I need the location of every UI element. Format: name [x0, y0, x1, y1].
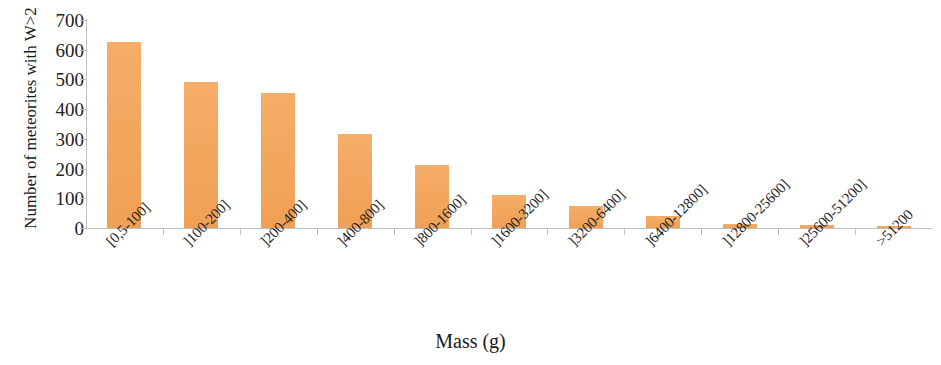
y-axis-tick-label: 400 [28, 100, 84, 119]
x-axis-tick-mark [394, 229, 395, 235]
x-axis-tick-mark [778, 229, 779, 235]
y-axis-tick-label: 0 [28, 219, 84, 238]
y-axis-tick-mark [80, 198, 86, 199]
x-axis-tick-mark [163, 229, 164, 235]
x-axis-tick-mark [855, 229, 856, 235]
x-axis-tick-mark [624, 229, 625, 235]
y-axis-tick-labels: 0100200300400500600700 [28, 0, 84, 365]
y-axis-tick-label: 200 [28, 159, 84, 178]
y-axis-tick-mark [80, 50, 86, 51]
bar-chart: Number of meteorites with W>2 0100200300… [0, 0, 941, 365]
y-axis-tick-mark [80, 228, 86, 229]
y-axis-tick-mark [80, 109, 86, 110]
x-axis-tick-labels: [0,5-100]]100-200]]200-400]]400-800]]800… [86, 232, 932, 332]
y-axis-tick-mark [80, 79, 86, 80]
y-axis-tick-mark [80, 169, 86, 170]
x-axis-tick-mark [240, 229, 241, 235]
x-axis-tick-mark [701, 229, 702, 235]
x-axis-title: Mass (g) [0, 330, 941, 353]
y-axis-tick-mark [80, 139, 86, 140]
y-axis-tick-label: 600 [28, 40, 84, 59]
x-axis-tick-mark [547, 229, 548, 235]
y-axis-tick-label: 300 [28, 129, 84, 148]
y-axis-tick-mark [80, 20, 86, 21]
y-axis-tick-label: 500 [28, 70, 84, 89]
x-axis-tick-mark [317, 229, 318, 235]
y-axis-tick-label: 100 [28, 189, 84, 208]
x-axis-tick-mark [471, 229, 472, 235]
bar [107, 42, 141, 228]
y-axis-tick-label: 700 [28, 11, 84, 30]
